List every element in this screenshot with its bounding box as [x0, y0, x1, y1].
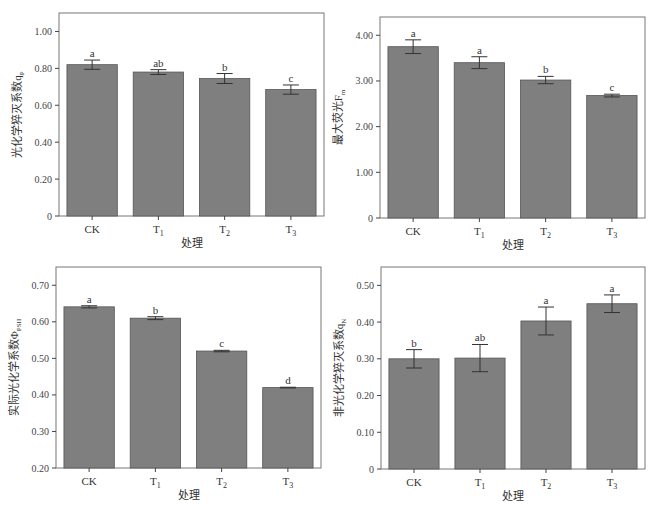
bar [454, 63, 504, 218]
y-tick-label: 2.00 [356, 121, 374, 132]
y-tick-label: 0.20 [32, 463, 50, 474]
bar [455, 358, 505, 469]
x-tick-label: T2 [216, 475, 227, 490]
y-tick-label: 0 [368, 213, 373, 224]
significance-letter: b [411, 337, 417, 349]
y-tick-label: 0.60 [35, 100, 53, 111]
bar [263, 388, 313, 468]
significance-letter: c [609, 81, 614, 93]
bar [133, 72, 183, 216]
significance-letter: b [543, 63, 549, 75]
y-tick-label: 1.00 [35, 26, 53, 37]
y-tick-label: 0.30 [357, 353, 375, 364]
x-tick-label: CK [405, 225, 420, 237]
bar [196, 351, 246, 468]
x-tick-label: CK [81, 475, 96, 487]
y-tick-label: 0.10 [357, 427, 375, 438]
y-axis-title: 最大荧光Fm [331, 89, 347, 145]
significance-letter: a [87, 293, 92, 305]
significance-letter: a [90, 47, 95, 59]
x-tick-label: T1 [474, 225, 485, 240]
x-axis-title: 处理 [502, 239, 524, 251]
panel-phipsii: 0.200.300.400.500.600.70aCKbT1cT2dT3处理实际… [7, 267, 321, 501]
y-tick-label: 4.00 [356, 30, 374, 41]
x-axis-title: 处理 [502, 490, 524, 502]
x-tick-label: T2 [540, 225, 551, 240]
significance-letter: ab [153, 57, 164, 69]
bar [266, 90, 316, 216]
bar [587, 96, 637, 218]
significance-letter: c [288, 72, 293, 84]
x-tick-label: CK [406, 476, 421, 488]
y-tick-label: 0.50 [32, 353, 50, 364]
y-tick-label: 0 [47, 211, 52, 222]
x-axis-title: 处理 [178, 489, 200, 501]
bar [389, 359, 439, 469]
y-tick-label: 0.40 [35, 137, 53, 148]
x-tick-label: T2 [541, 476, 552, 491]
y-tick-label: 0.20 [35, 174, 53, 185]
bar [520, 80, 570, 218]
y-tick-label: 0.30 [32, 426, 50, 437]
y-axis-title: 实际光化学系数ΦPSII [7, 318, 23, 416]
y-tick-label: 0.70 [32, 280, 50, 291]
figure-canvas: 00.200.400.600.801.00aCKabT1bT2cT3处理光化学猝… [0, 0, 654, 509]
bar [67, 65, 117, 216]
x-tick-label: T3 [607, 476, 618, 491]
bar [388, 47, 438, 218]
significance-letter: a [544, 294, 549, 306]
y-tick-label: 0.40 [32, 389, 50, 400]
y-tick-label: 0.40 [357, 317, 375, 328]
x-axis-title: 处理 [181, 237, 203, 249]
significance-letter: c [219, 337, 224, 349]
x-tick-label: CK [84, 223, 99, 235]
bar [521, 321, 571, 469]
x-tick-label: T1 [153, 223, 164, 238]
significance-letter: a [610, 282, 615, 294]
significance-letter: d [285, 374, 291, 386]
significance-letter: a [411, 27, 416, 39]
significance-letter: b [222, 61, 228, 73]
significance-letter: ab [475, 331, 486, 343]
y-tick-label: 0.50 [357, 280, 375, 291]
bar [587, 304, 637, 469]
x-tick-label: T3 [607, 225, 618, 240]
panel-qn: 00.100.200.300.400.50bCKabT1aT2aT3处理非光化学… [332, 267, 645, 502]
bar [199, 79, 249, 216]
y-axis-title: 光化学猝灭系数qP [10, 71, 26, 158]
bar [130, 318, 180, 468]
y-tick-label: 0 [369, 464, 374, 475]
x-tick-label: T1 [475, 476, 486, 491]
x-tick-label: T2 [219, 223, 230, 238]
y-tick-label: 0.60 [32, 316, 50, 327]
x-tick-label: T3 [286, 223, 297, 238]
panel-qp: 00.200.400.600.801.00aCKabT1bT2cT3处理光化学猝… [10, 13, 324, 249]
y-tick-label: 0.20 [357, 390, 375, 401]
y-tick-label: 1.00 [356, 167, 374, 178]
x-tick-label: T1 [150, 475, 161, 490]
bar [64, 307, 114, 468]
y-tick-label: 3.00 [356, 75, 374, 86]
panel-fm: 01.002.003.004.00aCKaT1bT2cT3处理最大荧光Fm [331, 17, 645, 251]
y-tick-label: 0.80 [35, 63, 53, 74]
significance-letter: a [477, 44, 482, 56]
x-tick-label: T3 [283, 475, 294, 490]
significance-letter: b [153, 304, 159, 316]
y-axis-title: 非光化学猝灭系数qN [332, 319, 348, 418]
